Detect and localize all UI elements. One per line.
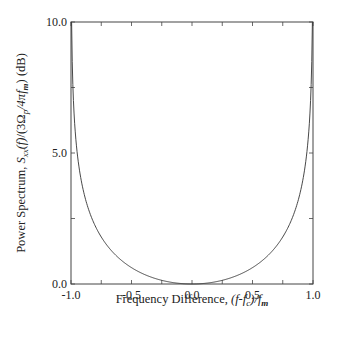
y-tick-label: 10.0 bbox=[46, 15, 67, 29]
spectrum-curve bbox=[71, 22, 313, 284]
axis-ticks bbox=[71, 22, 313, 284]
x-tick-label: 1.0 bbox=[306, 288, 321, 302]
y-axis-label: Power Spectrum, Sxx(f)/(3Ωp/4πfm) (dB) bbox=[14, 53, 30, 253]
x-axis-label: Frequency Difference, (f-fc)/fm bbox=[116, 292, 269, 308]
plot-frame bbox=[71, 22, 313, 284]
y-tick-label: 5.0 bbox=[52, 146, 67, 160]
y-tick-label: 0.0 bbox=[52, 277, 67, 291]
y-tick-labels: 0.05.010.0 bbox=[46, 15, 67, 291]
power-spectrum-chart: -1.0-0.50.00.51.0 0.05.010.0 Frequency D… bbox=[0, 0, 341, 338]
